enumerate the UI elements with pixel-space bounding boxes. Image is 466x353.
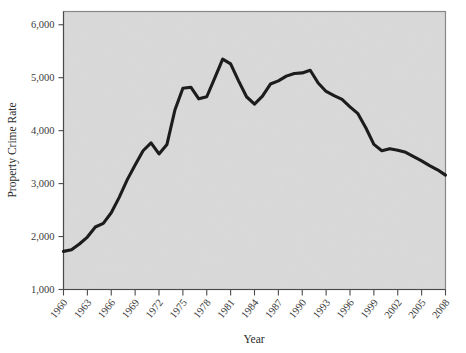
y-tick-label: 1,000 xyxy=(31,284,55,295)
y-tick-label: 4,000 xyxy=(31,125,55,136)
y-tick-label: 5,000 xyxy=(31,72,55,83)
x-axis-title: Year xyxy=(243,333,264,345)
chart-figure: 1,0002,0003,0004,0005,0006,000 196019631… xyxy=(0,0,466,353)
y-axis-title: Property Crime Rate xyxy=(6,102,19,197)
y-tick-label: 2,000 xyxy=(31,231,55,242)
y-tick-label: 3,000 xyxy=(31,178,55,189)
property-crime-rate-line-chart: 1,0002,0003,0004,0005,0006,000 196019631… xyxy=(0,0,466,353)
y-tick-label: 6,000 xyxy=(31,19,55,30)
